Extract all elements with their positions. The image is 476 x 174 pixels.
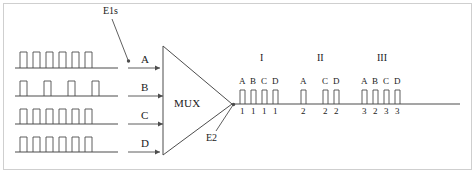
output-slot-channel: C	[261, 77, 267, 86]
output-slot-digit: 2	[323, 107, 328, 116]
output-slot-channel: D	[333, 77, 340, 86]
output-slot-channel: D	[272, 77, 279, 86]
output-slot-digit: 3	[362, 107, 367, 116]
input-feed-line-a	[128, 66, 160, 71]
output-slot-digit: 1	[262, 107, 267, 116]
e1s-label: E1s	[103, 6, 118, 16]
output-slot-channel: A	[239, 77, 246, 86]
output-slot-channel: B	[372, 77, 378, 86]
output-slot-channel: D	[394, 77, 401, 86]
output-slot-channel: C	[322, 77, 328, 86]
group-roman-ii: II	[317, 53, 324, 63]
output-slot-digit: 1	[273, 107, 278, 116]
e2-leader-line	[216, 103, 235, 131]
output-slot-digit: 1	[251, 107, 256, 116]
output-pulse-group-iii	[362, 90, 400, 104]
e2-label: E2	[206, 133, 217, 143]
group-roman-iii: III	[377, 53, 387, 63]
output-pulse-group-ii	[301, 90, 339, 104]
output-slot-channel: A	[361, 77, 368, 86]
input-waveform-c	[15, 109, 118, 124]
input-waveform-a	[15, 52, 118, 68]
input-feed-line-b	[128, 94, 163, 99]
output-slot-channel: A	[300, 77, 307, 86]
mux-label: MUX	[174, 98, 201, 109]
output-slot-digit: 2	[334, 107, 339, 116]
diagram-vector-layer	[0, 0, 476, 174]
output-slot-channel: B	[250, 77, 256, 86]
output-slot-digit: 3	[384, 107, 389, 116]
input-label-d: D	[141, 138, 149, 149]
input-label-a: A	[141, 54, 149, 65]
group-roman-i: I	[260, 53, 263, 63]
input-label-b: B	[141, 82, 148, 93]
output-pulse-group-i	[240, 90, 278, 104]
output-slot-digit: 2	[373, 107, 378, 116]
output-slot-digit: 3	[395, 107, 400, 116]
input-waveform-d	[15, 137, 118, 152]
input-feed-line-d	[128, 150, 160, 155]
diagram-canvas: E1s E2 MUX A B C D I II III A B C D 1 1 …	[0, 0, 476, 174]
input-feed-line-c	[128, 122, 163, 127]
output-slot-digit: 2	[301, 107, 306, 116]
input-label-c: C	[141, 110, 148, 121]
input-waveform-b	[15, 81, 118, 96]
output-slot-digit: 1	[240, 107, 245, 116]
e1s-leader-line	[112, 19, 130, 63]
output-slot-channel: C	[383, 77, 389, 86]
